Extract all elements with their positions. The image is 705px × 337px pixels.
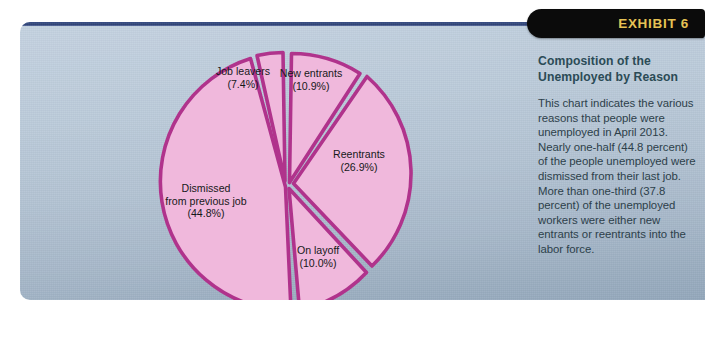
exhibit-panel: Job leavers (7.4%) New entrants (10.9%) … [20,22,705,300]
pie-label-on-layoff: On layoff (10.0%) [286,244,350,269]
exhibit-number-tab: EXHIBIT 6 [527,9,705,38]
pie-label-dismissed: Dismissed from previous job (44.8%) [138,182,274,220]
exhibit-heading: Composition of the Unemployed by Reason [538,54,696,85]
pie-chart: Job leavers (7.4%) New entrants (10.9%) … [20,22,520,300]
exhibit-caption: Composition of the Unemployed by Reason … [538,54,696,257]
exhibit-description: This chart indicates the various reasons… [538,96,696,257]
exhibit-number-label: EXHIBIT 6 [618,16,705,31]
pie-label-reentrants: Reentrants (26.9%) [316,148,402,173]
pie-label-job-leavers: Job leavers (7.4%) [212,65,274,90]
pie-label-new-entrants: New entrants (10.9%) [276,67,346,92]
